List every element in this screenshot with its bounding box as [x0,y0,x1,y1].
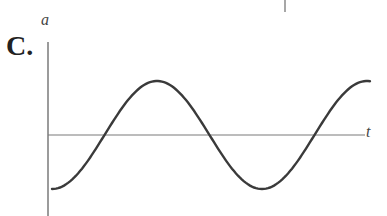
graph [0,0,387,216]
